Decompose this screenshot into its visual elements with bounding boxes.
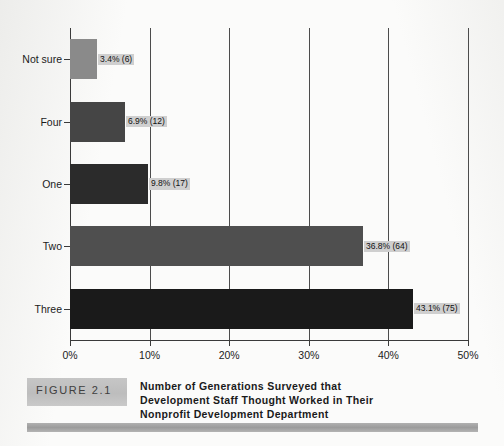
x-axis-tick-label: 40% (378, 349, 399, 361)
x-axis-tick-label: 20% (219, 349, 240, 361)
bar-value-label: 36.8% (64) (364, 241, 410, 252)
bar-row: 36.8% (64) (70, 226, 410, 266)
x-axis-tick-label: 10% (139, 349, 160, 361)
y-axis-tick-label: Three (0, 303, 62, 315)
x-axis-tick (229, 340, 230, 346)
x-axis-tick (468, 340, 469, 346)
y-axis-tick-label: Two (0, 240, 62, 252)
caption-line: Nonprofit Development Department (140, 407, 480, 421)
x-axis-tick-label: 50% (457, 349, 478, 361)
y-axis-tick-label: Four (0, 116, 62, 128)
x-axis-tick (388, 340, 389, 346)
x-axis-tick (150, 340, 151, 346)
figure-number-label: FIGURE 2.1 (36, 384, 112, 396)
y-axis-tick-label: One (0, 178, 62, 190)
page-background: 0%10%20%30%40%50% Not sureFourOneTwoThre… (0, 0, 504, 446)
bar-row: 9.8% (17) (70, 164, 190, 204)
bar (70, 289, 413, 329)
bar-value-label: 6.9% (12) (126, 116, 167, 127)
caption-line: Development Staff Thought Worked in Thei… (140, 393, 480, 407)
y-axis-tick-label: Not sure (0, 53, 62, 65)
x-axis-tick (309, 340, 310, 346)
caption-rule (27, 423, 478, 432)
x-axis-tick-label: 0% (62, 349, 77, 361)
bar-chart: 0%10%20%30%40%50% Not sureFourOneTwoThre… (0, 0, 504, 372)
x-axis-tick-label: 30% (298, 349, 319, 361)
bar (70, 39, 97, 79)
bar-row: 6.9% (12) (70, 102, 167, 142)
bar-value-label: 3.4% (6) (98, 54, 134, 65)
caption-title: Number of Generations Surveyed thatDevel… (140, 379, 480, 421)
bar-row: 3.4% (6) (70, 39, 134, 79)
bar-row: 43.1% (75) (70, 289, 460, 329)
gridline (468, 28, 469, 340)
x-axis-tick (70, 340, 71, 346)
figure-caption: FIGURE 2.1 Number of Generations Surveye… (0, 374, 504, 446)
caption-line: Number of Generations Surveyed that (140, 379, 480, 393)
bar-value-label: 9.8% (17) (149, 178, 190, 189)
bar-value-label: 43.1% (75) (414, 303, 460, 314)
bar (70, 226, 363, 266)
bar (70, 102, 125, 142)
x-axis-line (70, 340, 469, 341)
bar (70, 164, 148, 204)
